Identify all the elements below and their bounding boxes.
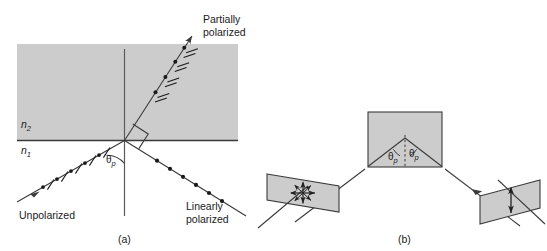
right-cross-section-plane	[480, 180, 540, 224]
medium-n1-label: n1	[21, 144, 31, 159]
panel-b: θp θp (b)	[258, 112, 545, 245]
panel-b-caption: (b)	[398, 233, 411, 245]
panel-a: n2 n1 θp Partially polarized Unpolarized…	[17, 13, 246, 245]
medium-n2-region	[17, 44, 238, 140]
panel-a-caption: (a)	[118, 233, 131, 245]
refracted-ray-label-line1: Linearly	[186, 200, 224, 212]
figure-svg: n2 n1 θp Partially polarized Unpolarized…	[0, 0, 547, 251]
polarization-figure: n2 n1 θp Partially polarized Unpolarized…	[0, 0, 547, 251]
incident-ray-arrowhead	[31, 191, 40, 197]
central-block	[368, 112, 442, 167]
reflected-ray-label-line1: Partially	[203, 13, 241, 25]
reflected-ray-label-line2: polarized	[203, 26, 246, 38]
incident-ray-label: Unpolarized	[19, 209, 75, 221]
refracted-ray-label-line2: polarized	[186, 213, 229, 225]
